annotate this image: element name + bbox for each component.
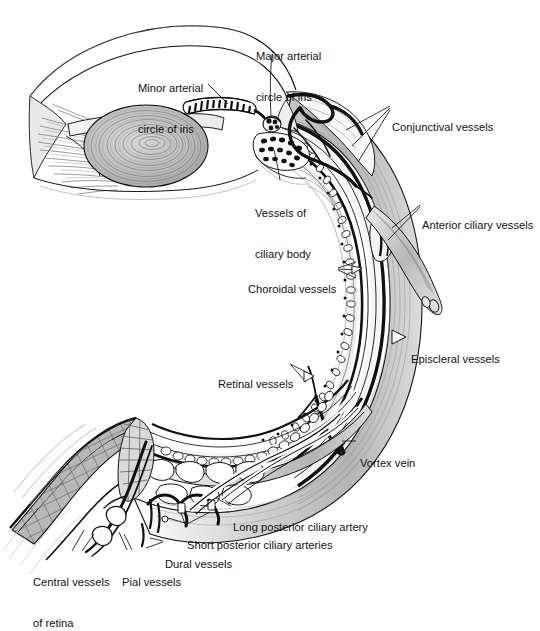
label-line: of retina [33, 617, 109, 631]
label-line: Pial vessels [122, 576, 181, 590]
label-line: Retinal vessels [218, 378, 293, 392]
label-episcleral-vessels: Episcleral vessels [411, 326, 500, 394]
label-line: Minor arterial [138, 82, 203, 96]
label-line: Choroidal vessels [248, 283, 336, 297]
label-line: Central vessels [33, 576, 109, 590]
label-retinal-vessels: Retinal vessels [218, 351, 293, 419]
label-vortex-vein: Vortex vein [360, 430, 415, 498]
label-conjunctival-vessels: Conjunctival vessels [392, 94, 493, 162]
label-line: circle of iris [256, 91, 321, 105]
label-line: Major arterial [256, 50, 321, 64]
label-line: Vessels of [255, 207, 311, 221]
label-line: Anterior ciliary vessels [422, 219, 533, 233]
label-line: Episcleral vessels [411, 353, 500, 367]
label-anterior-ciliary-vessels: Anterior ciliary vessels [422, 192, 533, 260]
label-line: circle of iris [138, 123, 203, 137]
label-line: Vortex vein [360, 457, 415, 471]
label-choroidal-vessels: Choroidal vessels [248, 256, 336, 324]
label-minor-arterial-circle-of-iris: Minor arterial circle of iris [138, 55, 203, 164]
label-pial-vessels: Pial vessels [122, 549, 181, 617]
label-major-arterial-circle-of-iris: Major arterial circle of iris [256, 23, 321, 132]
label-central-vessels-of-retina: Central vessels of retina [33, 549, 109, 631]
label-line: Conjunctival vessels [392, 121, 493, 135]
